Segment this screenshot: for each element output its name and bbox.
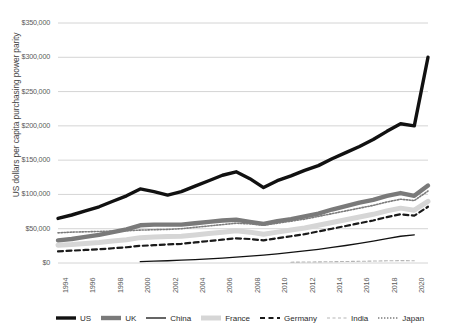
legend-label: China — [170, 314, 191, 323]
series-lines — [58, 57, 428, 262]
legend-item-japan[interactable]: Japan — [377, 312, 424, 324]
legend-label: France — [225, 314, 250, 323]
chart-legend: USUKChinaFranceGermanyIndiaJapan — [55, 309, 455, 327]
line-chart: US dollars per capita purchasing power p… — [0, 0, 468, 332]
thick-black-line-icon — [55, 312, 77, 324]
legend-item-uk[interactable]: UK — [100, 312, 136, 324]
legend-item-india[interactable]: India — [326, 312, 368, 324]
dotted-gray-line-icon — [377, 312, 399, 324]
thin-dashed-gray-line-icon — [326, 312, 348, 324]
legend-label: UK — [125, 314, 136, 323]
series-line-china — [140, 235, 414, 262]
legend-label: Japan — [402, 314, 424, 323]
legend-item-france[interactable]: France — [200, 312, 250, 324]
legend-label: Germany — [284, 314, 317, 323]
thick-gray-line-icon — [100, 312, 122, 324]
thick-lightgray-line-icon — [200, 312, 222, 324]
legend-item-us[interactable]: US — [55, 312, 91, 324]
dashed-black-line-icon — [259, 312, 281, 324]
legend-label: India — [351, 314, 368, 323]
thin-black-line-icon — [145, 312, 167, 324]
plot-area — [0, 0, 468, 332]
gridlines — [58, 23, 428, 263]
legend-label: US — [80, 314, 91, 323]
legend-item-germany[interactable]: Germany — [259, 312, 317, 324]
legend-item-china[interactable]: China — [145, 312, 191, 324]
series-line-india — [291, 261, 414, 263]
